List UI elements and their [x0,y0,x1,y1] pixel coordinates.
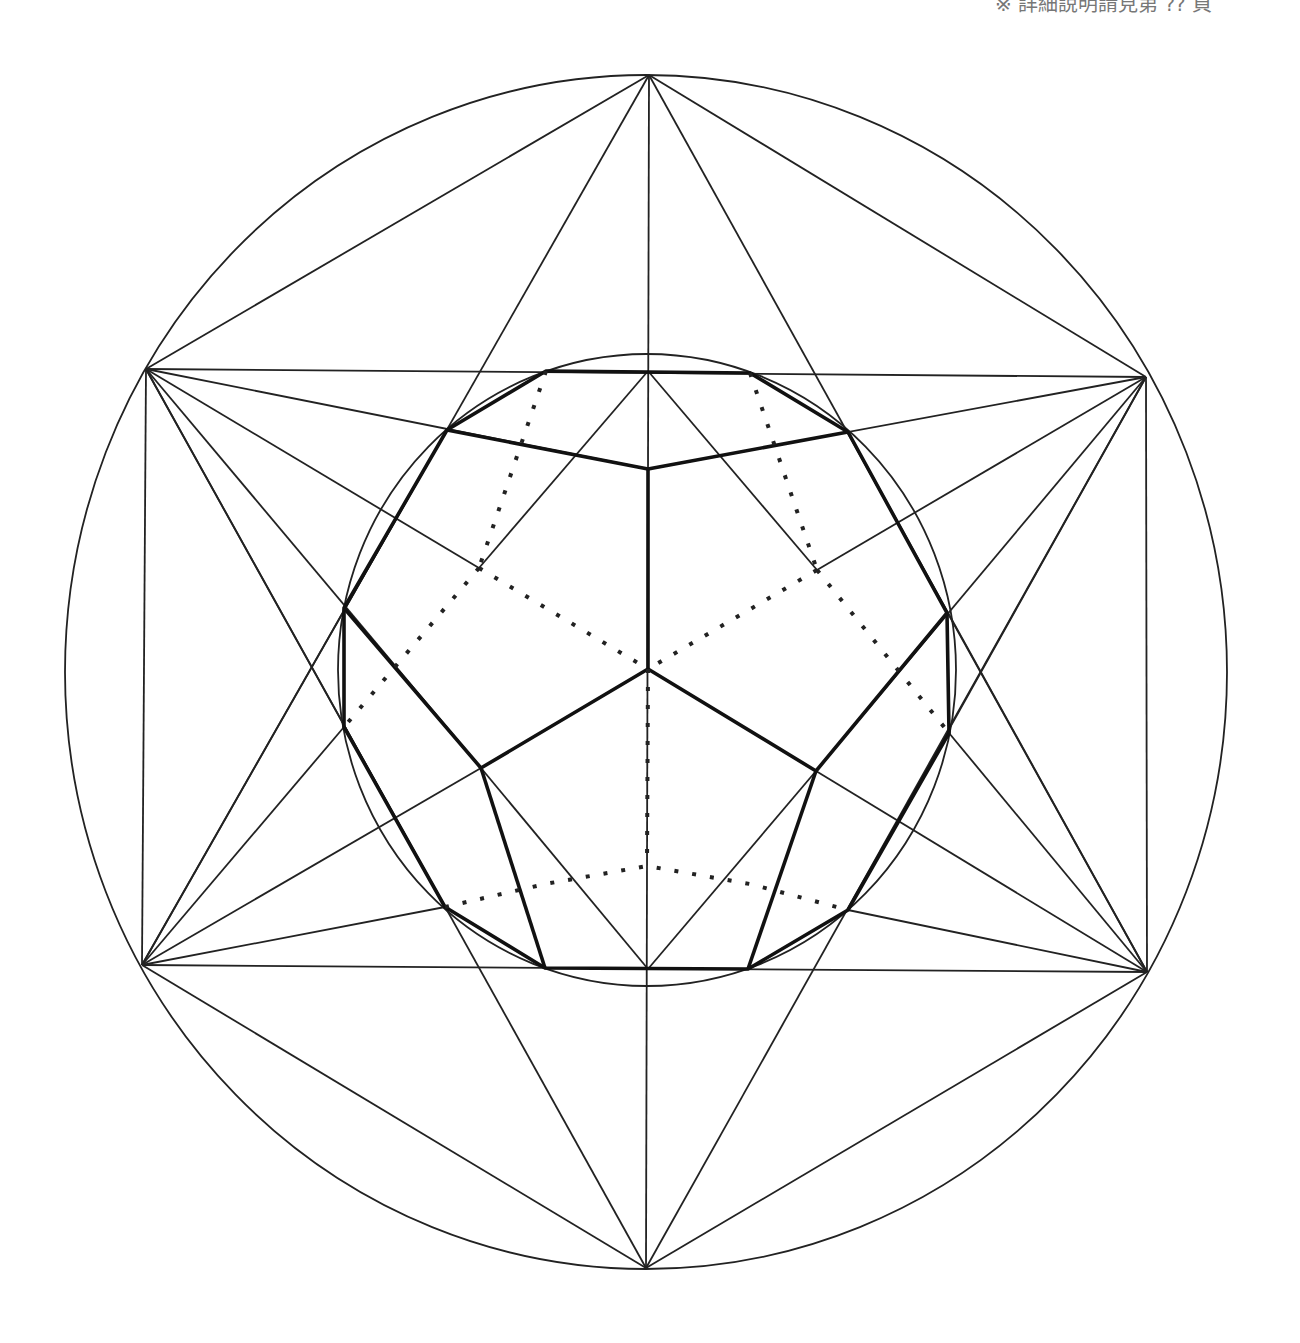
dodecahedron-diagram [0,0,1300,1343]
